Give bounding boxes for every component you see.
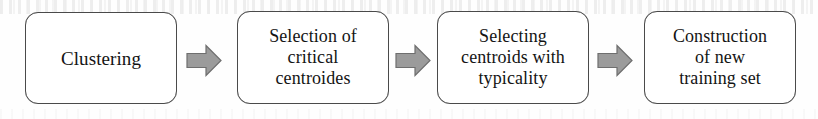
flow-node-label: Selection of critical centroides [263, 26, 363, 89]
flow-node-label: Clustering [55, 48, 147, 69]
scan-artifact-bottom [0, 109, 818, 119]
flowchart-diagram: Clustering Selection of critical centroi… [0, 0, 818, 119]
flow-node-label: Selecting centroids with typicality [455, 26, 571, 89]
flow-node-selection-critical-centroides[interactable]: Selection of critical centroides [237, 11, 389, 104]
flow-node-label: Construction of new training set [667, 26, 773, 89]
block-arrow-right-icon [395, 44, 431, 77]
block-arrow-right-icon [597, 44, 633, 77]
flow-node-clustering[interactable]: Clustering [25, 12, 177, 104]
flow-node-selecting-centroids-typicality[interactable]: Selecting centroids with typicality [437, 11, 589, 104]
flow-node-construction-new-training-set[interactable]: Construction of new training set [644, 11, 796, 104]
block-arrow-right-icon [186, 44, 222, 77]
